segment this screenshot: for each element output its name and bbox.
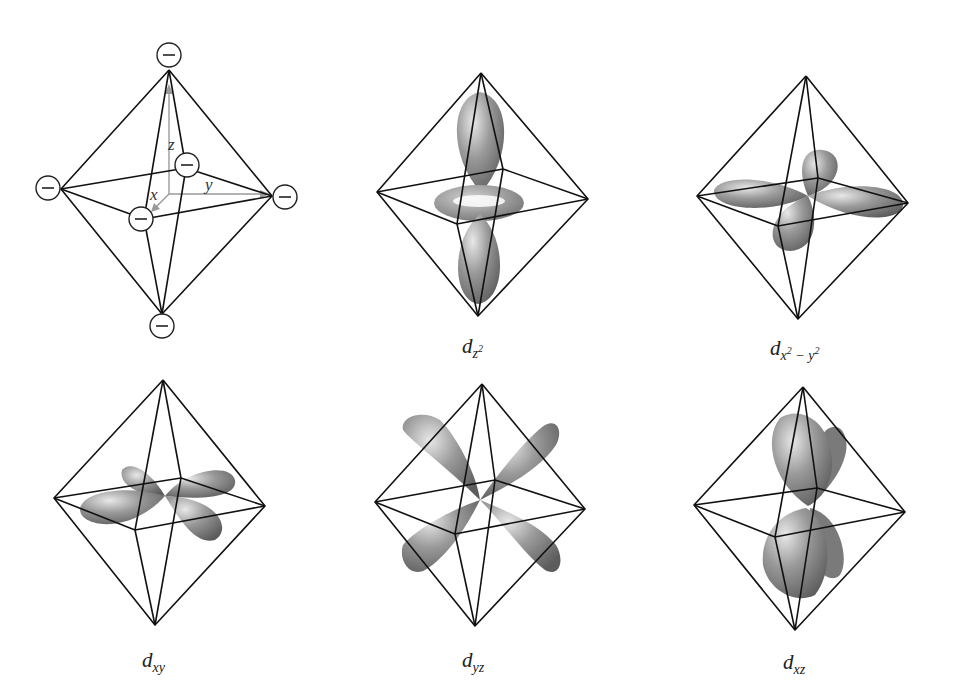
panel-dyz <box>375 384 585 626</box>
orbital-dx2-y2 <box>714 150 903 251</box>
orbital-dxy <box>80 466 235 540</box>
y-axis-label: y <box>203 175 213 194</box>
lobe-lower-left <box>402 500 480 572</box>
label-main: d <box>462 334 473 358</box>
ligand-bottom <box>150 314 174 338</box>
label-sup-x: 2 <box>787 345 792 356</box>
label-sup-y: 2 <box>814 345 819 356</box>
label-sub: yz <box>473 660 485 675</box>
panel-dx2-y2 <box>697 76 908 319</box>
lobe-lower-front <box>763 508 828 598</box>
label-main: d <box>142 648 153 672</box>
label-dxy: dxy <box>142 648 165 673</box>
label-minus: − <box>792 348 808 363</box>
x-axis-label: x <box>149 185 158 204</box>
label-main: d <box>783 650 794 674</box>
label-main: d <box>462 648 473 672</box>
label-sup: 2 <box>478 343 483 354</box>
ligand-top <box>157 43 181 67</box>
label-main: d <box>770 336 781 360</box>
label-sub-x: x <box>781 348 787 363</box>
lobe-upper-front <box>772 413 832 506</box>
label-dz2: dz2 <box>462 334 483 359</box>
panel-dxz <box>694 387 905 630</box>
lobe-lower-right <box>480 500 560 572</box>
orbital-dz2 <box>434 92 524 304</box>
octahedron-edges <box>61 70 272 314</box>
lobe-front-left <box>80 490 165 524</box>
panel-dz2 <box>377 73 588 316</box>
label-sub: xy <box>153 660 165 675</box>
coordinate-axes: z y x <box>149 84 270 212</box>
ligand-left <box>36 176 60 200</box>
ligand-back <box>175 153 199 177</box>
label-dx2-y2: dx2 − y2 <box>770 336 819 361</box>
label-sub: xz <box>794 662 806 677</box>
ligand-front <box>129 207 153 231</box>
z-axis-label: z <box>167 135 175 154</box>
label-dyz: dyz <box>462 648 484 673</box>
ligand-octahedron: z y x <box>36 43 297 338</box>
label-dxz: dxz <box>783 650 805 675</box>
panel-dxy <box>54 380 265 625</box>
ligand-right <box>273 185 297 209</box>
lobe-back <box>802 150 838 196</box>
